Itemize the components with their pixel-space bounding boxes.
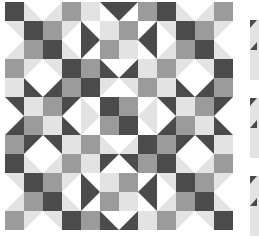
solid-square (43, 173, 62, 192)
quilt-cell (62, 59, 81, 78)
quilt-cell (62, 116, 81, 135)
solid-square (43, 116, 62, 135)
quilt-cell (176, 59, 195, 78)
solid-square (195, 116, 214, 135)
solid-square (138, 211, 157, 230)
quilt-cell (138, 116, 157, 135)
quilt-cell (43, 211, 62, 230)
quilt-cell (62, 135, 81, 154)
solid-square (43, 192, 62, 211)
quilt-cell (5, 40, 24, 59)
quilt-cell (119, 154, 138, 173)
quilt-cell (119, 97, 138, 116)
quilt-cell (195, 173, 214, 192)
quilt-cell (62, 211, 81, 230)
solid-square (195, 192, 214, 211)
quilt-cell (81, 135, 100, 154)
quilt-cell (214, 21, 233, 40)
quilt-cell (157, 173, 176, 192)
quilt-cell (43, 116, 62, 135)
quilt-cell (81, 192, 100, 211)
quilt-cell (138, 21, 157, 40)
solid-square (157, 2, 176, 21)
quilt-cell (100, 192, 119, 211)
solid-square (214, 78, 233, 97)
solid-square (62, 78, 81, 97)
quilt-cell (24, 192, 43, 211)
quilt-cell (5, 21, 24, 40)
solid-square (81, 59, 100, 78)
solid-square (138, 135, 157, 154)
solid-square (176, 21, 195, 40)
solid-square (138, 2, 157, 21)
quilt-cell (24, 40, 43, 59)
quilt-cell (81, 21, 100, 40)
solid-square (119, 97, 138, 116)
quilt-cell (157, 21, 176, 40)
quilt-cell (214, 78, 233, 97)
quilt-cell (62, 192, 81, 211)
quilt-cell (62, 78, 81, 97)
solid-square (43, 21, 62, 40)
quilt-cell (43, 2, 62, 21)
quilt-cell (5, 97, 24, 116)
solid-square (81, 78, 100, 97)
side-tile (250, 176, 259, 236)
quilt-cell (5, 2, 24, 21)
quilt-cell (119, 2, 138, 21)
solid-square (5, 2, 24, 21)
solid-square (100, 21, 119, 40)
quilt-cell (138, 135, 157, 154)
solid-square (195, 173, 214, 192)
side-tile (250, 20, 259, 80)
solid-square (5, 59, 24, 78)
quilt-cell (214, 173, 233, 192)
quilt-cell (24, 78, 43, 97)
quilt-cell (24, 135, 43, 154)
quilt-cell (138, 192, 157, 211)
solid-square (62, 59, 81, 78)
quilt-cell (119, 21, 138, 40)
solid-square (157, 135, 176, 154)
quilt-cell (138, 173, 157, 192)
quilt-cell (176, 173, 195, 192)
solid-square (100, 116, 119, 135)
solid-square (62, 2, 81, 21)
solid-square (138, 154, 157, 173)
solid-square (81, 154, 100, 173)
quilt-cell (157, 116, 176, 135)
quilt-cell (157, 78, 176, 97)
quilt-cell (195, 40, 214, 59)
solid-square (138, 78, 157, 97)
quilt-cell (5, 59, 24, 78)
quilt-cell (5, 135, 24, 154)
solid-square (43, 97, 62, 116)
quilt-cell (176, 2, 195, 21)
solid-square (176, 97, 195, 116)
quilt-cell (195, 59, 214, 78)
quilt-cell (195, 78, 214, 97)
solid-square (138, 59, 157, 78)
quilt-cell (24, 211, 43, 230)
solid-square (157, 59, 176, 78)
quilt-cell (214, 211, 233, 230)
solid-square (81, 211, 100, 230)
quilt-cell (119, 78, 138, 97)
quilt-cell (214, 97, 233, 116)
quilt-cell (176, 211, 195, 230)
quilt-cell (214, 192, 233, 211)
quilt-cell (176, 40, 195, 59)
quilt-cell (138, 78, 157, 97)
quilt-cell (176, 135, 195, 154)
quilt-cell (62, 97, 81, 116)
quilt-cell (157, 192, 176, 211)
solid-square (5, 154, 24, 173)
quilt-cell (100, 21, 119, 40)
solid-square (5, 78, 24, 97)
quilt-cell (81, 154, 100, 173)
solid-square (157, 154, 176, 173)
quilt-pattern (5, 2, 233, 230)
solid-square (81, 2, 100, 21)
solid-square (100, 192, 119, 211)
side-tile (250, 98, 259, 158)
